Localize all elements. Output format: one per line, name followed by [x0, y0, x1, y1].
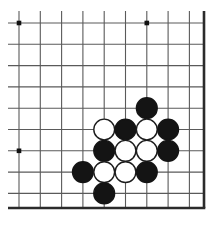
stone-black-b1[interactable] — [136, 98, 157, 119]
star-point-0 — [17, 21, 22, 26]
stone-white-w6[interactable] — [115, 162, 136, 183]
stone-black-b2[interactable] — [115, 119, 136, 140]
star-point-1 — [145, 21, 150, 26]
stone-white-w3[interactable] — [115, 140, 136, 161]
stone-white-w5[interactable] — [94, 162, 115, 183]
stone-black-b3[interactable] — [158, 119, 179, 140]
star-point-2 — [17, 149, 22, 154]
stone-black-b5[interactable] — [158, 140, 179, 161]
go-board-diagram — [0, 0, 216, 229]
stone-black-b8[interactable] — [94, 183, 115, 204]
goban-canvas — [0, 0, 216, 229]
stone-white-w1[interactable] — [94, 119, 115, 140]
stone-black-b7[interactable] — [136, 162, 157, 183]
stone-white-w4[interactable] — [136, 140, 157, 161]
stone-white-w2[interactable] — [136, 119, 157, 140]
stone-black-b4[interactable] — [94, 140, 115, 161]
stone-black-b6[interactable] — [73, 162, 94, 183]
